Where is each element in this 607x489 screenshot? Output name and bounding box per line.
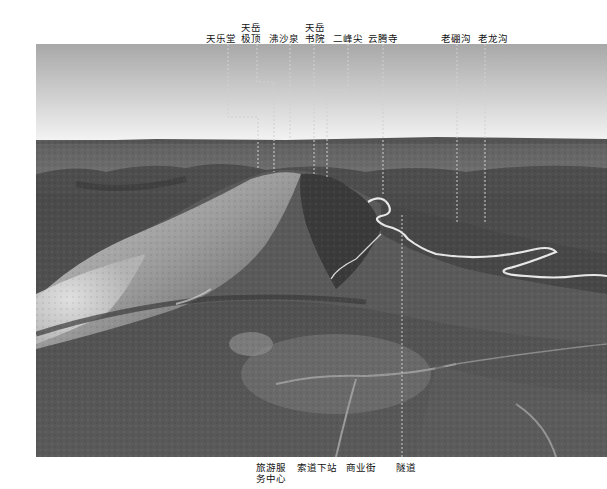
label-visitor-center-line1: 旅游服 [256,462,286,473]
label-tianyue-shuyuan-line2: 书院 [305,33,325,44]
label-tianyue-jiding: 天岳 极顶 [240,22,262,44]
aerial-photo [36,44,607,457]
label-feishaquan: 沸沙泉 [269,33,299,44]
label-laolonggou: 老龙沟 [478,33,508,44]
label-cableway-lower-station: 索道下站 [297,462,337,473]
label-tianyue-shuyuan: 天岳 书院 [304,22,326,44]
label-tianyue-jiding-line1: 天岳 [241,22,261,33]
label-yunteng-si: 云腾寺 [368,33,398,44]
label-tianletang: 天乐堂 [206,33,236,44]
annotated-aerial-figure: 天乐堂 天岳 极顶 沸沙泉 天岳 书院 二峰尖 云腾寺 老硼沟 老龙沟 旅游服 … [0,0,607,489]
label-laopenggou: 老硼沟 [441,33,471,44]
label-tianyue-jiding-line2: 极顶 [241,33,261,44]
label-visitor-center-line2: 务中心 [256,473,286,484]
label-tunnel: 隧道 [396,462,416,473]
label-commercial-street: 商业街 [346,462,376,473]
label-tianyue-shuyuan-line1: 天岳 [305,22,325,33]
label-erfengjian: 二峰尖 [333,33,363,44]
label-visitor-center: 旅游服 务中心 [256,462,286,484]
